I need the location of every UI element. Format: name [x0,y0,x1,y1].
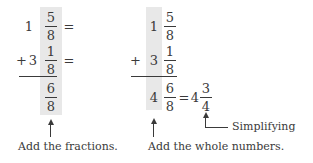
up-arrow-icon [203,112,209,118]
numerator: 5 [163,11,177,24]
caption-simplifying: Simplifying [232,121,296,133]
up-arrow-icon [48,119,54,125]
arrow-leader-line [205,127,228,128]
fraction-bar [164,60,176,61]
plus-sign: + [130,54,140,67]
fraction: 1 8 [44,45,58,76]
equals-sign: = [178,91,190,104]
numerator: 3 [199,82,213,95]
denominator: 8 [163,29,177,42]
numerator: 1 [44,45,58,58]
fraction-bar [164,97,176,98]
sum-divider-line [19,76,57,77]
fraction-bar [45,26,57,27]
plus-sign: + [16,54,26,67]
fraction-bar [164,26,176,27]
numerator: 1 [163,45,177,58]
arrow-shaft [153,123,154,137]
arrow-shaft [205,117,206,127]
denominator: 8 [44,63,58,76]
whole-number: 3 [149,54,159,67]
fraction: 1 8 [163,45,177,76]
result-fraction: 6 8 [163,82,177,113]
simplified-fraction: 3 4 [199,82,213,113]
numerator: 6 [163,82,177,95]
whole-number: 1 [24,20,34,33]
denominator: 8 [163,100,177,113]
fraction: 5 8 [163,11,177,42]
equals-sign: = [62,54,76,67]
fraction: 5 8 [44,11,58,42]
fraction-bar [45,97,57,98]
denominator: 8 [163,63,177,76]
equals-sign: = [62,20,76,33]
arrow-shaft [50,124,51,137]
caption-add-whole-numbers: Add the whole numbers. [148,141,284,153]
denominator: 8 [44,100,58,113]
whole-number: 1 [149,20,159,33]
up-arrow-icon [151,118,157,124]
fraction-bar [45,60,57,61]
result-fraction: 6 8 [44,82,58,113]
sum-divider-line [131,76,177,77]
numerator: 5 [44,11,58,24]
fraction-bar [200,97,212,98]
denominator: 8 [44,29,58,42]
result-whole-number: 4 [149,91,159,104]
numerator: 6 [44,82,58,95]
whole-number: 3 [28,54,38,67]
caption-add-fractions: Add the fractions. [18,141,118,153]
